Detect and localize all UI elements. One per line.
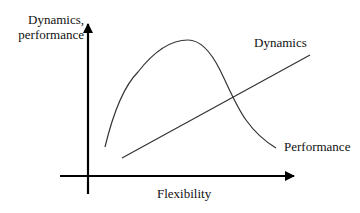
dynamics-label: Dynamics [254,35,307,50]
dynamics-line [122,55,310,158]
performance-curve [105,40,276,148]
y-axis-label-line2: performance [4,27,84,42]
performance-label: Performance [284,139,350,154]
y-axis-label-line1: Dynamics, [4,12,84,27]
y-axis-label: Dynamics, performance [4,12,84,42]
x-axis-label: Flexibility [157,186,211,201]
